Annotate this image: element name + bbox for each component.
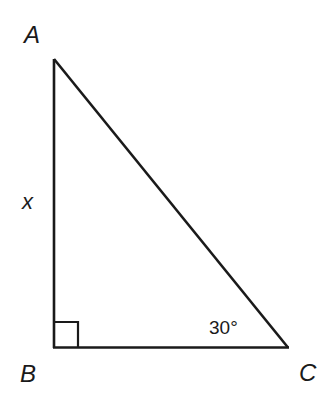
side-label-x: x [21, 189, 34, 214]
vertex-label-b: B [20, 360, 36, 387]
vertex-label-c: C [299, 359, 317, 386]
side-ac [54, 59, 288, 348]
right-angle-marker-icon [54, 322, 78, 348]
triangle-diagram: A B C x 30° [0, 0, 334, 406]
vertex-label-a: A [22, 21, 40, 48]
angle-label-c: 30° [209, 317, 238, 338]
